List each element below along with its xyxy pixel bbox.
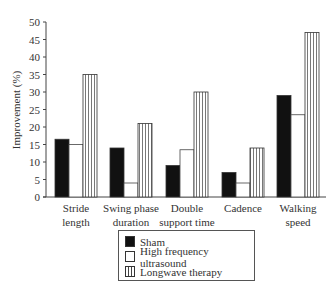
bar-sham [166,166,180,198]
y-tick-label: 20 [29,121,41,133]
x-category-label: speed [285,216,311,228]
bar-longwave-therapy [83,75,97,198]
x-category-label: duration [113,216,150,228]
sham-swatch-icon [125,236,135,247]
x-category-label: Stride [63,202,89,214]
bar-longwave-therapy [194,92,208,197]
y-tick-label: 10 [29,156,41,168]
bar-high-frequency-ultrasound [236,183,250,197]
legend: Sham High frequency ultrasound Longwave … [118,230,255,281]
y-axis-title: Improvement (%) [10,70,23,149]
y-tick-label: 45 [29,34,41,46]
legend-label: Longwave therapy [140,266,222,278]
bar-sham [110,148,124,197]
x-category-label: Double [171,202,204,214]
bar-sham [55,139,69,197]
longwave-swatch-icon [125,266,135,277]
bars [55,33,319,198]
y-tick-label: 25 [29,104,41,116]
y-tick-label: 40 [29,51,41,63]
bar-high-frequency-ultrasound [180,150,194,197]
bar-sham [277,96,291,198]
bar-longwave-therapy [138,124,152,198]
y-tick-label: 15 [29,139,41,151]
y-tick-label: 5 [35,174,41,186]
y-tick-label: 0 [35,191,41,203]
x-category-label: Walking [280,202,317,214]
x-axis-labels: StridelengthSwing phasedurationDoublesup… [62,202,317,228]
x-category-label: Cadence [224,202,262,214]
legend-item-high-frequency-ultrasound: High frequency ultrasound [125,249,254,264]
ultrasound-swatch-icon [125,251,135,262]
y-tick-label: 30 [29,86,41,98]
bar-high-frequency-ultrasound [124,183,138,197]
x-category-label: Swing phase [103,202,159,214]
bar-longwave-therapy [305,33,319,198]
bar-longwave-therapy [250,148,264,197]
y-tick-label: 35 [29,69,41,81]
x-category-label: length [62,216,90,228]
bar-high-frequency-ultrasound [291,115,305,197]
x-category-label: support time [159,216,214,228]
bar-chart: 05101520253035404550 StridelengthSwing p… [0,0,336,228]
y-tick-label: 50 [29,16,41,28]
bar-high-frequency-ultrasound [69,145,83,198]
bar-sham [222,173,236,198]
